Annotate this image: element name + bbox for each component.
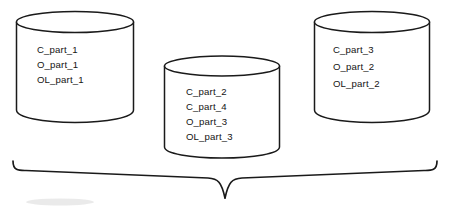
scan-smudge xyxy=(26,199,94,206)
cylinder-top-ellipse-right xyxy=(315,12,430,33)
db-left-line-2: OL_part_1 xyxy=(37,74,84,85)
cylinder-body-left xyxy=(17,22,134,123)
cylinder-top-ellipse-center xyxy=(165,56,280,76)
db-right-line-1: O_part_2 xyxy=(333,61,374,72)
db-right-line-0: C_part_3 xyxy=(333,44,374,55)
db-left-line-1: O_part_1 xyxy=(37,59,78,70)
cylinder-body-right xyxy=(315,22,430,123)
cylinder-body-center xyxy=(165,66,280,158)
grouping-brace xyxy=(13,161,437,198)
database-cylinder-center[interactable]: C_part_2 C_part_4 O_part_3 OL_part_3 xyxy=(165,56,280,158)
db-center-line-1: C_part_4 xyxy=(186,101,227,112)
db-center-line-0: C_part_2 xyxy=(186,86,227,97)
diagram-canvas: C_part_1 O_part_1 OL_part_1 C_part_2 C_p… xyxy=(0,0,450,206)
db-center-line-2: O_part_3 xyxy=(186,116,227,127)
cylinder-top-ellipse-left xyxy=(17,12,134,33)
db-left-line-0: C_part_1 xyxy=(37,44,78,55)
brace-left-arm xyxy=(13,161,225,198)
database-cylinder-left[interactable]: C_part_1 O_part_1 OL_part_1 xyxy=(17,12,134,123)
diagram-root: C_part_1 O_part_1 OL_part_1 C_part_2 C_p… xyxy=(0,0,450,206)
db-center-line-3: OL_part_3 xyxy=(186,131,233,142)
database-cylinder-right[interactable]: C_part_3 O_part_2 OL_part_2 xyxy=(315,12,430,123)
brace-right-arm xyxy=(225,161,437,198)
db-right-line-2: OL_part_2 xyxy=(333,78,380,89)
